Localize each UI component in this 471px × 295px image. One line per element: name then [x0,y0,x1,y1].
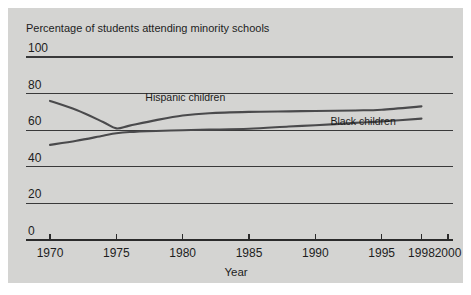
figure-root: Percentage of students attending minorit… [0,0,471,295]
series-label-hispanic-children: Hispanic children [145,91,225,103]
x-tick-label-1995: 1995 [368,246,395,260]
x-tick-label-2000: 2000 [435,246,462,260]
y-axis-tick-labels: 020406080100 [28,41,48,238]
y-tick-label-0: 0 [28,224,35,238]
x-axis-ticks [50,234,448,240]
x-axis-title: Year [224,266,247,278]
x-tick-label-1975: 1975 [103,246,130,260]
line-chart-svg: Percentage of students attending minorit… [8,8,463,283]
y-tick-label-100: 100 [28,41,48,55]
y-tick-label-40: 40 [28,151,42,165]
x-axis-tick-labels: 19701975198019851990199519982000 [37,246,462,260]
x-tick-label-1990: 1990 [302,246,329,260]
gridlines-group [26,57,453,240]
series-annotations-group: Hispanic childrenBlack children [145,91,396,128]
y-tick-label-80: 80 [28,78,42,92]
chart-panel: Percentage of students attending minorit… [8,8,463,283]
x-tick-label-1998: 1998 [408,246,435,260]
x-tick-label-1970: 1970 [37,246,64,260]
y-tick-label-60: 60 [28,114,42,128]
y-tick-label-20: 20 [28,187,42,201]
x-tick-label-1980: 1980 [169,246,196,260]
series-label-black-children: Black children [330,115,396,127]
x-tick-label-1985: 1985 [236,246,263,260]
chart-title: Percentage of students attending minorit… [26,22,270,34]
